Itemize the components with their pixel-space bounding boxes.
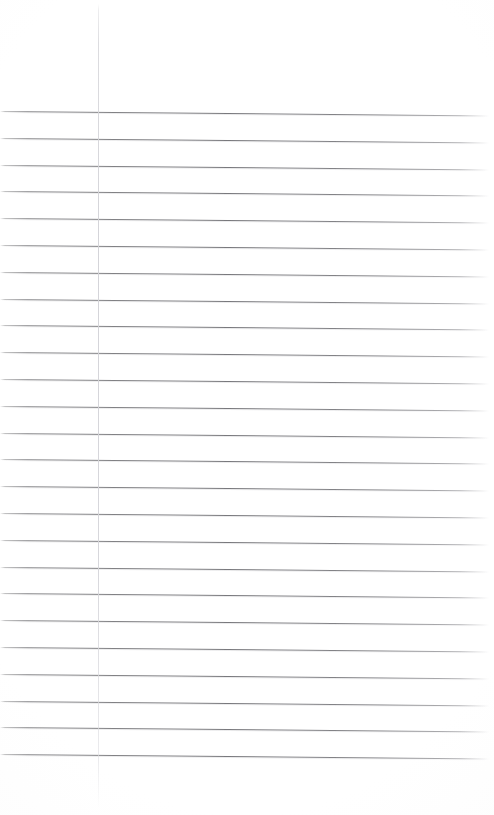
ruled-line bbox=[0, 433, 489, 438]
ruled-line bbox=[0, 513, 489, 518]
ruled-line bbox=[0, 459, 489, 464]
ruled-line bbox=[0, 218, 489, 223]
ruled-line bbox=[0, 593, 489, 598]
scanned-page bbox=[0, 0, 494, 815]
ruled-line bbox=[0, 620, 489, 625]
ruled-line bbox=[0, 111, 489, 116]
ruled-line bbox=[0, 379, 489, 384]
ruled-line bbox=[0, 647, 489, 652]
ruled-line bbox=[0, 138, 489, 143]
ruled-line bbox=[0, 325, 489, 330]
ruled-line bbox=[0, 567, 489, 572]
ruled-line bbox=[0, 540, 489, 545]
ruled-line bbox=[0, 727, 489, 732]
ruled-line bbox=[0, 165, 489, 170]
ruled-line bbox=[0, 299, 489, 304]
ruled-line bbox=[0, 406, 489, 411]
ruled-line bbox=[0, 754, 489, 759]
ruled-line bbox=[0, 674, 489, 679]
vertical-margin-rule bbox=[98, 4, 99, 808]
ruled-line bbox=[0, 486, 489, 491]
ruled-line bbox=[0, 352, 489, 357]
ruled-line bbox=[0, 191, 489, 196]
ruled-line bbox=[0, 701, 489, 706]
ruled-lines-layer bbox=[0, 0, 494, 815]
ruled-line bbox=[0, 245, 489, 250]
ruled-line bbox=[0, 272, 489, 277]
